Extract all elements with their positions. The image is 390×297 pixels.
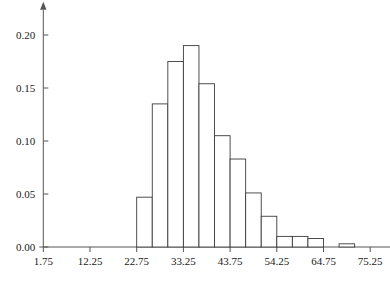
x-tick-label: 12.25 [78,255,103,267]
y-tick-label: 0.05 [16,188,36,200]
y-tick-label: 0.10 [16,135,36,147]
histogram-chart: 1.7512.2522.7533.2543.7554.2564.7575.250… [0,0,390,297]
x-tick-label: 43.75 [218,255,243,267]
histogram-bar [339,244,355,247]
histogram-bar [261,216,277,247]
histogram-bar [137,197,153,247]
x-tick-label: 1.75 [34,255,54,267]
histogram-bar [230,159,246,247]
histogram-bar [292,236,308,247]
plot-area: 1.7512.2522.7533.2543.7554.2564.7575.250… [0,0,390,297]
histogram-bar [308,239,324,247]
x-tick-label: 33.25 [171,255,196,267]
x-tick-label: 75.25 [358,255,383,267]
y-tick-label: 0.00 [16,241,36,253]
y-tick-label: 0.15 [16,82,36,94]
histogram-bar [199,84,215,247]
x-tick-label: 54.25 [264,255,289,267]
histogram-bar [246,193,262,247]
histogram-bar [168,62,184,248]
histogram-bar [183,46,199,247]
histogram-bar [277,236,293,247]
histogram-bar [152,104,168,247]
x-tick-label: 22.75 [124,255,149,267]
y-tick-label: 0.20 [16,29,36,41]
x-tick-label: 64.75 [311,255,336,267]
histogram-bar [215,136,231,247]
y-axis-arrow-icon [40,2,46,10]
